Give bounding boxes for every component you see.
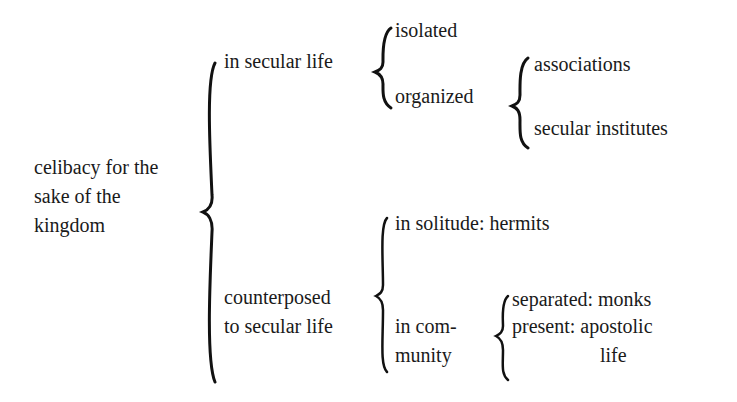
node-isolated: isolated (395, 18, 457, 42)
node-in-secular-life: in secular life (224, 49, 333, 73)
organized-brace (512, 58, 528, 148)
root-brace (203, 63, 215, 382)
node-separated-monks: separated: monks (512, 287, 651, 311)
node-secular-institutes: secular institutes (534, 116, 668, 140)
node-in-solitude-hermits: in solitude: hermits (395, 211, 549, 235)
node-in-community-line-2: munity (395, 343, 452, 367)
node-in-community-line-1: in com- (395, 314, 457, 338)
root-node-line-3: kingdom (34, 213, 105, 237)
root-node-line-1: celibacy for the (34, 155, 158, 179)
node-counterposed-line-1: counterposed (224, 285, 331, 309)
node-organized: organized (395, 84, 474, 108)
community-brace (496, 296, 508, 380)
node-present-apostolic-line-1: present: apostolic (512, 314, 653, 338)
node-associations: associations (534, 52, 631, 76)
root-node-line-2: sake of the (34, 184, 121, 208)
node-counterposed-line-2: to secular life (224, 314, 333, 338)
node-present-apostolic-line-2: life (600, 343, 627, 367)
secular-life-brace (375, 28, 391, 108)
counterposed-brace (376, 218, 387, 372)
